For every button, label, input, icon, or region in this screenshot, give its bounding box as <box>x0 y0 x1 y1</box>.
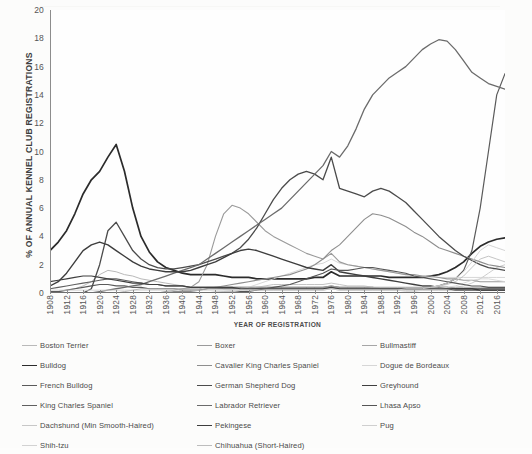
legend-column-0: Boston TerrierBulldogFrench BulldogKing … <box>22 335 207 454</box>
y-axis: % OF ANNUAL KENNEL CLUB REGISTRATIONS 20… <box>0 0 50 293</box>
x-tick-label: 1948 <box>211 295 220 314</box>
series-line <box>50 242 505 290</box>
x-tickmark <box>149 290 150 294</box>
legend-line-icon <box>362 385 377 386</box>
x-tick-label: 1984 <box>360 295 369 314</box>
x-tickmark <box>414 290 415 294</box>
x-tickmark <box>364 290 365 294</box>
legend-line-icon <box>22 385 37 386</box>
legend-entry[interactable]: Dachshund (Min Smooth-Haired) <box>22 415 207 435</box>
x-tick-label: 2012 <box>476 295 485 314</box>
legend-label: Lhasa Apso <box>380 401 421 410</box>
y-tick-label: 4 <box>39 231 44 241</box>
y-tick-label: 6 <box>39 203 44 213</box>
x-tickmark <box>397 290 398 294</box>
legend-line-icon <box>22 445 37 446</box>
y-tick-label: 20 <box>34 5 44 15</box>
legend-line-icon <box>22 425 37 426</box>
x-tick-label: 1972 <box>311 295 320 314</box>
series-line <box>50 40 505 293</box>
legend-label: Pug <box>380 421 394 430</box>
x-tick-label: 1940 <box>178 295 187 314</box>
legend-label: Pekingese <box>215 421 251 430</box>
x-tickmark <box>315 290 316 294</box>
scan-artifact <box>40 6 500 7</box>
y-tick-label: 16 <box>34 62 44 72</box>
y-tick-label: 8 <box>39 175 44 185</box>
x-tick-label: 1992 <box>393 295 402 314</box>
legend-line-icon <box>22 405 37 406</box>
legend-entry[interactable]: Labrador Retriever <box>197 395 372 415</box>
legend-entry[interactable]: Greyhound <box>362 375 530 395</box>
legend-entry[interactable]: German Shepherd Dog <box>197 375 372 395</box>
x-tickmark <box>431 290 432 294</box>
legend-column-1: BoxerCavalier King Charles SpanielGerman… <box>197 335 372 454</box>
legend-entry[interactable]: Boston Terrier <box>22 335 207 355</box>
x-tickmark <box>50 290 51 294</box>
legend-label: Bullmastiff <box>380 341 416 350</box>
legend-entry[interactable]: Bullmastiff <box>362 335 530 355</box>
x-axis-title: YEAR OF REGISTRATION <box>50 321 505 328</box>
legend-entry[interactable]: Cavalier King Charles Spaniel <box>197 355 372 375</box>
legend-entry[interactable]: Lhasa Apso <box>362 395 530 415</box>
legend-line-icon <box>22 365 37 366</box>
legend-line-icon <box>362 405 377 406</box>
legend-line-icon <box>362 425 377 426</box>
x-tick-label: 1924 <box>112 295 121 314</box>
y-tick-label: 14 <box>34 90 44 100</box>
legend-entry[interactable]: Chihuahua (Short-Haired) <box>197 435 372 454</box>
legend-entry[interactable]: Pekingese <box>197 415 372 435</box>
y-tick-label: 10 <box>34 147 44 157</box>
legend-entry[interactable]: Shih-tzu <box>22 435 207 454</box>
legend-column-2: BullmastiffDogue de BordeauxGreyhoundLha… <box>362 335 530 435</box>
legend-entry[interactable]: Dogue de Bordeaux <box>362 355 530 375</box>
y-axis-title: % OF ANNUAL KENNEL CLUB REGISTRATIONS <box>24 40 34 270</box>
legend-line-icon <box>362 365 377 366</box>
x-tick-label: 1956 <box>245 295 254 314</box>
x-tick-label: 1932 <box>145 295 154 314</box>
legend-line-icon <box>197 405 212 406</box>
y-tick-label: 18 <box>34 33 44 43</box>
x-tickmark <box>348 290 349 294</box>
legend-label: Bulldog <box>40 361 66 370</box>
x-tick-label: 2000 <box>427 295 436 314</box>
x-tick-label: 2016 <box>493 295 502 314</box>
x-tick-label: 1964 <box>278 295 287 314</box>
legend-line-icon <box>197 345 212 346</box>
legend-entry[interactable]: Boxer <box>197 335 372 355</box>
legend-label: King Charles Spaniel <box>40 401 113 410</box>
x-tick-label: 1960 <box>261 295 270 314</box>
x-tickmark <box>199 290 200 294</box>
legend-label: Labrador Retriever <box>215 401 280 410</box>
x-tick-label: 1912 <box>63 295 72 314</box>
y-tick-label: 0 <box>39 288 44 298</box>
x-tick-label: 1944 <box>195 295 204 314</box>
legend-entry[interactable]: Pug <box>362 415 530 435</box>
x-tick-label: 1996 <box>410 295 419 314</box>
x-tick-label: 1976 <box>327 295 336 314</box>
legend-line-icon <box>362 345 377 346</box>
legend-label: Shih-tzu <box>40 441 69 450</box>
legend-entry[interactable]: Bulldog <box>22 355 207 375</box>
x-tick-label: 1920 <box>96 295 105 314</box>
legend-entry[interactable]: King Charles Spaniel <box>22 395 207 415</box>
legend-entry[interactable]: French Bulldog <box>22 375 207 395</box>
x-tick-label: 2008 <box>460 295 469 314</box>
legend-label: Chihuahua (Short-Haired) <box>215 441 304 450</box>
legend-label: Boston Terrier <box>40 341 89 350</box>
series-line <box>50 74 505 292</box>
x-tick-label: 1952 <box>228 295 237 314</box>
x-tickmark <box>232 290 233 294</box>
x-tickmark <box>166 290 167 294</box>
x-tick-label: 1968 <box>294 295 303 314</box>
x-tick-label: 1928 <box>129 295 138 314</box>
legend-label: Dogue de Bordeaux <box>380 361 449 370</box>
legend-label: Greyhound <box>380 381 418 390</box>
x-tick-label: 2004 <box>443 295 452 314</box>
x-tickmark <box>83 290 84 294</box>
x-tickmark <box>447 290 448 294</box>
legend-label: Dachshund (Min Smooth-Haired) <box>40 421 154 430</box>
x-tickmark <box>381 290 382 294</box>
x-tick-label: 1916 <box>79 295 88 314</box>
legend-label: Boxer <box>215 341 235 350</box>
